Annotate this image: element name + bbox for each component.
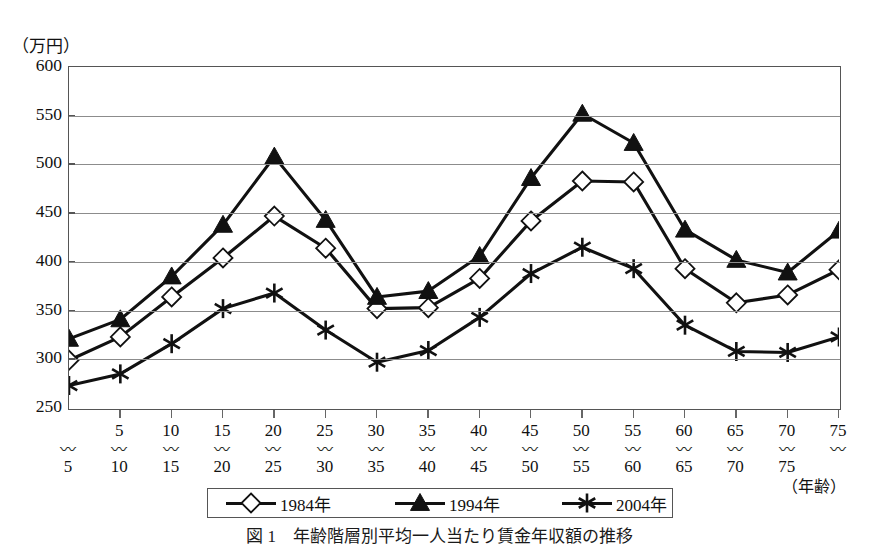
y-axis-tick-mark <box>68 115 75 116</box>
x-axis-tick-label: 65〰70 <box>708 422 762 477</box>
y-axis-tick-label: 600 <box>6 57 62 75</box>
gridline <box>69 262 840 263</box>
y-axis-tick-label: 300 <box>6 350 62 368</box>
diamond-open-marker <box>242 494 261 513</box>
gridline <box>69 213 840 214</box>
asterisk-marker-icon <box>558 490 616 516</box>
diamond-open-marker <box>727 293 746 312</box>
y-axis-tick-label: 500 <box>6 155 62 173</box>
x-axis-tick-mark <box>838 410 839 418</box>
diamond-open-marker <box>419 298 438 317</box>
x-axis-tick-mark <box>171 410 172 418</box>
x-axis-tick-label: 10〰15 <box>144 422 198 477</box>
asterisk-marker <box>163 334 179 353</box>
x-axis-tick-label: 75〰0 <box>811 422 865 477</box>
x-axis-unit-label: （年齢） <box>782 473 846 497</box>
asterisk-marker <box>579 494 595 513</box>
y-axis-tick-label: 350 <box>6 301 62 319</box>
x-axis-tick-mark <box>273 410 274 418</box>
y-axis-tick-label: 250 <box>6 398 62 416</box>
plot-area <box>68 66 841 410</box>
triangle-filled-marker <box>727 250 746 267</box>
triangle-filled-marker-icon <box>391 490 449 516</box>
legend-label: 2004年 <box>616 491 667 516</box>
y-axis-tick-mark <box>68 310 75 311</box>
x-axis-tick-label: 60〰65 <box>657 422 711 477</box>
triangle-filled-marker <box>676 220 695 237</box>
x-axis-tick-label: 45〰50 <box>503 422 557 477</box>
gridline <box>69 359 840 360</box>
chart-legend: 1984年 1994年 2004年 <box>207 488 673 518</box>
x-axis-tick-label: 70〰75 <box>760 422 814 477</box>
x-axis-tick-mark <box>222 410 223 418</box>
diamond-open-marker <box>624 172 643 191</box>
y-axis-tick-mark <box>68 163 75 164</box>
figure-caption: 図 1 年齢階層別平均一人当たり賃金年収額の推移 <box>0 522 879 547</box>
asterisk-marker <box>215 299 231 318</box>
legend-label: 1984年 <box>280 491 331 516</box>
x-axis-tick-mark <box>530 410 531 418</box>
x-axis-tick-label: 25〰30 <box>298 422 352 477</box>
x-axis-tick-label: 30〰35 <box>349 422 403 477</box>
legend-label: 1994年 <box>449 491 500 516</box>
triangle-filled-marker <box>573 104 592 121</box>
x-axis-tick-mark <box>325 410 326 418</box>
y-axis-tick-labels: 250300350400450500550600 <box>0 66 62 410</box>
series-markers <box>69 171 839 369</box>
diamond-open-marker-icon <box>222 490 280 516</box>
gridline <box>69 311 840 312</box>
triangle-filled-marker <box>624 133 643 150</box>
x-axis-tick-mark <box>119 410 120 418</box>
gridline <box>69 116 840 117</box>
x-axis-tick-label: 0〰5 <box>41 422 95 477</box>
x-axis-tick-mark <box>479 410 480 418</box>
x-axis-tick-label: 55〰60 <box>606 422 660 477</box>
x-axis-tick-label: 40〰45 <box>452 422 506 477</box>
diamond-open-marker <box>830 260 840 279</box>
x-axis-tick-mark <box>376 410 377 418</box>
series-canvas <box>69 67 839 408</box>
legend-item-2004[interactable]: 2004年 <box>558 489 667 517</box>
x-axis-tick-label: 50〰55 <box>554 422 608 477</box>
triangle-filled-marker <box>69 329 79 346</box>
asterisk-marker <box>574 238 590 257</box>
asterisk-marker <box>266 284 282 303</box>
x-axis-tick-mark <box>581 410 582 418</box>
y-axis-tick-label: 400 <box>6 252 62 270</box>
x-axis-tick-mark <box>633 410 634 418</box>
asterisk-marker <box>317 321 333 340</box>
x-axis-tick-label: 35〰40 <box>400 422 454 477</box>
gridline <box>69 164 840 165</box>
diamond-open-marker <box>778 285 797 304</box>
x-axis-tick-mark <box>787 410 788 418</box>
x-axis-tick-label: 20〰25 <box>246 422 300 477</box>
y-axis-tick-label: 450 <box>6 203 62 221</box>
triangle-filled-marker <box>411 494 430 511</box>
y-axis-tick-mark <box>68 358 75 359</box>
x-axis-tick-mark <box>684 410 685 418</box>
series-line <box>69 247 839 385</box>
x-axis-tick-mark <box>735 410 736 418</box>
legend-item-1984[interactable]: 1984年 <box>222 489 331 517</box>
triangle-filled-marker <box>830 221 840 238</box>
x-axis-tick-label: 15〰20 <box>195 422 249 477</box>
series-line <box>69 114 839 339</box>
y-axis-tick-label: 550 <box>6 106 62 124</box>
x-axis-tick-mark <box>427 410 428 418</box>
y-axis-unit-label: （万円） <box>12 32 80 57</box>
x-axis-tick-label: 5〰10 <box>92 422 146 477</box>
y-axis-tick-mark <box>68 261 75 262</box>
legend-item-1994[interactable]: 1994年 <box>391 489 500 517</box>
triangle-filled-marker <box>265 147 284 164</box>
triangle-filled-marker <box>419 282 438 299</box>
y-axis-tick-mark <box>68 212 75 213</box>
